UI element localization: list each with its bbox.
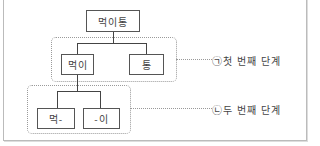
stage1-node-tong: 통 bbox=[129, 54, 164, 75]
connector-stage1-right bbox=[146, 43, 147, 54]
stage2-node-i: -이 bbox=[83, 108, 120, 129]
stage2-node-i-label: -이 bbox=[94, 111, 108, 126]
stage2-node-meok: 먹- bbox=[37, 108, 75, 129]
root-node: 먹이통 bbox=[86, 10, 140, 32]
stage2-label: ㉡두 번째 단계 bbox=[212, 102, 281, 117]
connector-stage2-left bbox=[57, 91, 58, 108]
stage2-node-meok-label: 먹- bbox=[49, 111, 63, 126]
connector-meogi-down bbox=[77, 75, 78, 91]
stage1-node-meogi-label: 먹이 bbox=[68, 57, 88, 72]
connector-stage1-bar bbox=[77, 43, 147, 44]
connector-stage2-bar bbox=[57, 91, 101, 92]
connector-stage1-left bbox=[77, 43, 78, 54]
connector-stage2-right bbox=[100, 91, 101, 108]
root-node-label: 먹이통 bbox=[98, 14, 128, 29]
stage2-leader bbox=[130, 108, 212, 109]
stage1-node-meogi: 먹이 bbox=[61, 54, 94, 75]
stage1-leader bbox=[176, 59, 212, 60]
stage1-node-tong-label: 통 bbox=[142, 57, 152, 72]
stage1-label: ㉠첫 번째 단계 bbox=[212, 53, 281, 68]
